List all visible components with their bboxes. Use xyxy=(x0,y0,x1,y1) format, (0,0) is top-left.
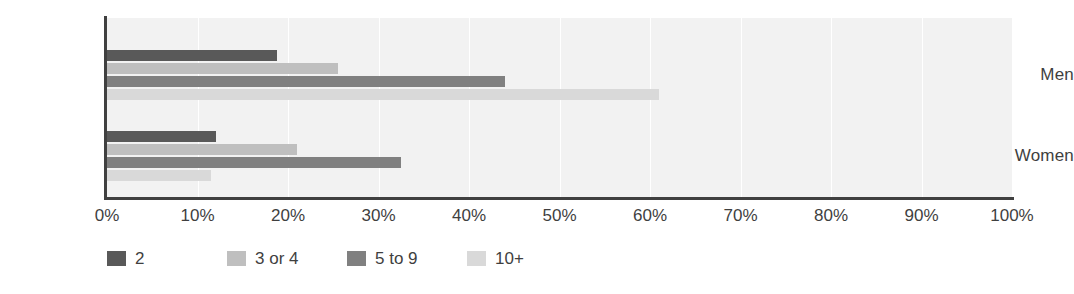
legend-swatch-icon xyxy=(347,251,366,266)
legend-item[interactable]: 2 xyxy=(107,250,144,267)
gridline xyxy=(922,18,923,198)
legend-item[interactable]: 10+ xyxy=(467,250,524,267)
plot-area xyxy=(107,18,1012,198)
x-axis-tick-label: 60% xyxy=(633,206,667,226)
legend-item[interactable]: 5 to 9 xyxy=(347,250,418,267)
bar xyxy=(107,131,216,142)
bar xyxy=(107,89,659,100)
gridline xyxy=(288,18,289,198)
gridline xyxy=(379,18,380,198)
horizontal-bar-chart: MenWomen 0%10%20%30%40%50%60%70%80%90%10… xyxy=(0,0,1074,294)
legend-label: 5 to 9 xyxy=(375,250,418,267)
legend-swatch-icon xyxy=(107,251,126,266)
x-axis-tick-label: 90% xyxy=(904,206,938,226)
y-axis-label-women: Women xyxy=(978,146,1074,166)
legend-label: 2 xyxy=(135,250,144,267)
bar xyxy=(107,76,505,87)
bar xyxy=(107,144,297,155)
legend-item[interactable]: 3 or 4 xyxy=(227,250,298,267)
x-axis-tick-label: 80% xyxy=(814,206,848,226)
x-axis-tick-label: 0% xyxy=(95,206,120,226)
legend-label: 10+ xyxy=(495,250,524,267)
bar xyxy=(107,50,277,61)
legend-label: 3 or 4 xyxy=(255,250,298,267)
x-axis-line xyxy=(104,197,1014,200)
x-axis-tick-label: 70% xyxy=(723,206,757,226)
x-axis-tick-label: 100% xyxy=(990,206,1033,226)
legend-swatch-icon xyxy=(467,251,486,266)
gridline xyxy=(560,18,561,198)
x-axis-tick-label: 20% xyxy=(271,206,305,226)
bar xyxy=(107,170,211,181)
gridline xyxy=(469,18,470,198)
x-axis-tick-label: 30% xyxy=(361,206,395,226)
gridline xyxy=(650,18,651,198)
gridline xyxy=(831,18,832,198)
x-axis-tick-label: 40% xyxy=(452,206,486,226)
x-axis-tick-label: 50% xyxy=(542,206,576,226)
bar xyxy=(107,63,338,74)
legend-swatch-icon xyxy=(227,251,246,266)
gridline xyxy=(1012,18,1013,198)
bar xyxy=(107,157,401,168)
x-axis-tick-label: 10% xyxy=(180,206,214,226)
y-axis-line xyxy=(104,16,107,200)
y-axis-label-men: Men xyxy=(978,65,1074,85)
gridline xyxy=(741,18,742,198)
